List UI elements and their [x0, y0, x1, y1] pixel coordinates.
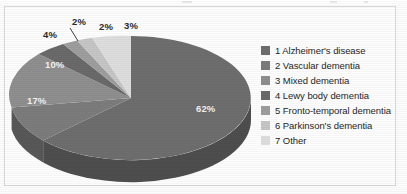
legend-item-2[interactable]: 2 Vascular dementia — [261, 58, 395, 73]
legend: 1 Alzheimer's disease 2 Vascular dementi… — [261, 43, 395, 148]
legend-item-label: 5 Fronto-temporal dementia — [275, 106, 391, 116]
slice-label-7: 3% — [124, 21, 138, 31]
slice-label-1: 62% — [196, 104, 215, 114]
legend-item-label: 2 Vascular dementia — [275, 61, 360, 71]
slice-label-6: 2% — [99, 22, 113, 32]
slice-label-5: 2% — [72, 17, 86, 27]
legend-item-5[interactable]: 5 Fronto-temporal dementia — [261, 103, 395, 118]
legend-item-label: 7 Other — [275, 136, 306, 146]
legend-item-3[interactable]: 3 Mixed dementia — [261, 73, 395, 88]
legend-item-label: 6 Parkinson's dementia — [275, 121, 372, 131]
legend-swatch-icon — [261, 91, 270, 100]
chart-container: 62% 17% 10% 4% 2% 2% 3% 1 Alzheimer's di… — [0, 0, 407, 194]
leader-line-slice5 — [70, 28, 78, 41]
slice-label-4: 4% — [43, 30, 57, 40]
legend-swatch-icon — [261, 76, 270, 85]
scan-artifact — [330, 1, 337, 3]
legend-swatch-icon — [261, 46, 270, 55]
legend-item-label: 1 Alzheimer's disease — [275, 46, 366, 56]
legend-item-7[interactable]: 7 Other — [261, 133, 395, 148]
slice-label-3: 10% — [45, 60, 64, 70]
legend-swatch-icon — [261, 106, 270, 115]
legend-item-label: 3 Mixed dementia — [275, 76, 349, 86]
legend-swatch-icon — [261, 136, 270, 145]
legend-item-label: 4 Lewy body dementia — [275, 91, 369, 101]
legend-item-6[interactable]: 6 Parkinson's dementia — [261, 118, 395, 133]
legend-swatch-icon — [261, 121, 270, 130]
legend-item-1[interactable]: 1 Alzheimer's disease — [261, 43, 395, 58]
legend-item-4[interactable]: 4 Lewy body dementia — [261, 88, 395, 103]
legend-swatch-icon — [261, 61, 270, 70]
scan-artifact — [364, 1, 368, 3]
slice-label-2: 17% — [27, 96, 46, 106]
